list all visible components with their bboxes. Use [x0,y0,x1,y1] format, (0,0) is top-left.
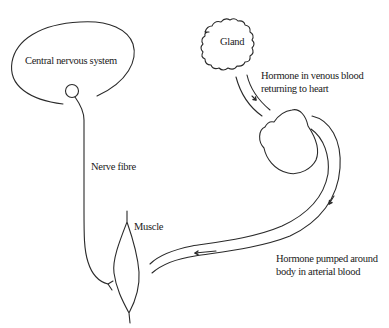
cns-label: Central nervous system [25,55,117,68]
heart-outline [260,110,318,174]
arterial-label-line2: body in arterial blood [276,266,360,279]
venous-label-line2: returning to heart [261,83,329,96]
venous-label-line1: Hormone in venous blood [261,70,363,83]
nerve-ending [108,281,113,290]
muscle-label: Muscle [134,221,163,234]
neuron-cell-body [66,85,79,98]
arterial-vessel-wall-outer [152,116,340,273]
nerve-fibre-label: Nerve fibre [91,161,136,174]
nerve-fibre [75,97,108,284]
arterial-label-line1: Hormone pumped around [276,253,378,266]
diagram-canvas [0,0,389,328]
arterial-vessel-wall-inner [150,129,328,264]
gland-label: Gland [220,36,244,49]
